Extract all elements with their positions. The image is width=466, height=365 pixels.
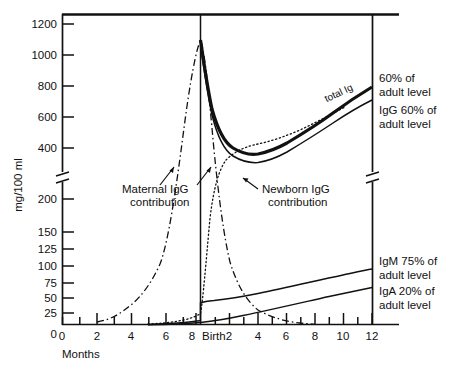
- right-label-total-ig-line1: 60% of: [379, 72, 416, 84]
- series-newborn-igg-line: [148, 107, 345, 324]
- annotation-maternal-line1: Maternal IgG: [122, 183, 189, 195]
- y-label-0: 0: [51, 328, 57, 340]
- x-label-pre-8: 8: [189, 330, 195, 342]
- right-label-igg: IgG 60% of adult level: [379, 104, 437, 130]
- right-label-igm: IgM 75% of adult level: [379, 255, 438, 281]
- x-axis-title: Months: [62, 348, 100, 360]
- y-label-800: 800: [38, 80, 57, 92]
- y-label-200: 200: [38, 193, 57, 205]
- x-label-post-8: 8: [312, 330, 318, 342]
- y-label-600: 600: [38, 111, 57, 123]
- y-axis-ticks: [62, 24, 74, 313]
- x-label-birth: Birth: [202, 330, 226, 342]
- x-label-post-2: 2: [226, 330, 232, 342]
- plot-frame: [62, 14, 399, 325]
- right-label-total-ig-line2: adult level: [379, 86, 431, 98]
- x-label-post-6: 6: [283, 330, 289, 342]
- x-label-post-12: 12: [366, 330, 379, 342]
- y-label-75: 75: [44, 277, 57, 289]
- chart-svg: 1200 1000 800 600 400 200 150 125 100 75…: [0, 0, 466, 365]
- right-axis-break: [366, 172, 379, 183]
- x-label-post-10: 10: [337, 330, 350, 342]
- x-label-pre-2: 2: [94, 330, 100, 342]
- immunoglobulin-levels-chart: 1200 1000 800 600 400 200 150 125 100 75…: [0, 0, 466, 365]
- y-label-1200: 1200: [31, 18, 57, 30]
- series-total-ig-line: [201, 40, 373, 154]
- right-label-total-ig: 60% of adult level: [379, 72, 431, 98]
- y-label-1000: 1000: [31, 49, 57, 61]
- annotation-newborn-line2: contribution: [268, 196, 327, 208]
- y-axis-tick-labels: 1200 1000 800 600 400 200 150 125 100 75…: [31, 18, 57, 340]
- series-igm-line: [148, 269, 372, 325]
- y-axis-title: mg/100 ml: [12, 158, 24, 212]
- y-label-400: 400: [38, 142, 57, 154]
- annotation-maternal-line2: contribution: [130, 196, 189, 208]
- right-label-igm-line1: IgM 75% of: [379, 255, 438, 267]
- right-label-igg-line2: adult level: [379, 118, 431, 130]
- annotation-newborn-line1: Newborn IgG: [262, 183, 330, 195]
- y-label-150: 150: [38, 226, 57, 238]
- x-label-post-4: 4: [255, 330, 262, 342]
- y-label-25: 25: [44, 307, 57, 319]
- x-label-pre-6: 6: [163, 330, 169, 342]
- right-label-iga-line2: adult level: [379, 299, 431, 311]
- annotation-maternal-igg: Maternal IgG contribution: [122, 167, 211, 208]
- x-axis-tick-labels: 0 2 4 6 8 2 4 6 8 10 12 Birth: [59, 330, 379, 342]
- y-label-125: 125: [38, 243, 57, 255]
- y-label-50: 50: [44, 292, 57, 304]
- x-axis-ticks-postnatal: [215, 313, 372, 325]
- x-label-pre-0: 0: [59, 330, 65, 342]
- annotation-newborn-igg: Newborn IgG contribution: [243, 178, 330, 208]
- left-axis-break: [56, 172, 69, 183]
- right-label-iga-line1: IgA 20% of: [379, 285, 435, 297]
- right-label-igm-line2: adult level: [379, 269, 431, 281]
- x-label-pre-4: 4: [128, 330, 135, 342]
- y-label-100: 100: [38, 260, 57, 272]
- right-label-iga: IgA 20% of adult level: [379, 285, 435, 311]
- right-label-igg-line1: IgG 60% of: [379, 104, 437, 116]
